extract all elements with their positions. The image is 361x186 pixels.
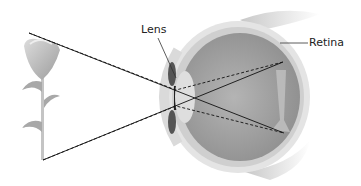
flower-object: [22, 39, 60, 160]
lens-label: Lens: [141, 24, 166, 36]
eye-diagram: [0, 0, 361, 186]
retina-label: Retina: [309, 37, 344, 49]
